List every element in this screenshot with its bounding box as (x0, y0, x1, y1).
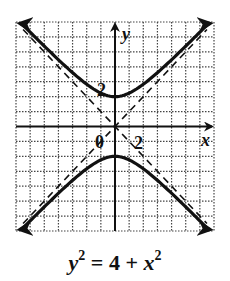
equation-rhs-var: x (143, 250, 154, 275)
y-tick-label: 2 (97, 80, 106, 100)
equation-rhs-exp: 2 (154, 248, 161, 263)
equation-lhs-exp: 2 (78, 248, 85, 263)
y-axis-label: y (120, 24, 131, 44)
x-axis-label: x (200, 130, 210, 150)
x-tick-label: 2 (134, 133, 143, 153)
origin-label: 0 (95, 132, 104, 152)
equation-caption: y2 = 4 + x2 (0, 240, 230, 281)
equation-middle: = 4 + (85, 250, 143, 275)
equation-lhs-var: y (69, 250, 79, 275)
hyperbola-graph: y x 2 0 2 (0, 0, 230, 240)
